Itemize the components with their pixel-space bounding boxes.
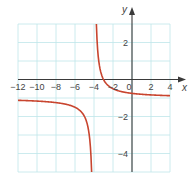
x-tick-label: −6 [70,82,80,92]
x-tick-label: −2 [108,82,118,92]
hyperbola-chart: −12−10−8−6−4−2024 2−2−4 x y [0,0,192,175]
x-tick-label: 2 [148,82,153,92]
x-tick-label: 4 [167,82,172,92]
x-tick-label: −8 [51,82,61,92]
y-tick-label: −2 [118,112,128,122]
y-axis-arrow-icon [129,7,135,15]
left-branch-curve [18,100,92,172]
grid-lines [18,24,170,172]
y-axis-label: y [121,4,128,15]
x-tick-label: −10 [29,82,44,92]
x-tick-labels: −12−10−8−6−4−2024 [10,82,172,92]
y-tick-label: −4 [118,149,128,159]
x-tick-label: −4 [89,82,99,92]
x-tick-label: −12 [10,82,25,92]
x-tick-label: 0 [126,82,131,92]
x-axis-label: x [181,82,188,93]
y-tick-label: 2 [123,38,128,48]
